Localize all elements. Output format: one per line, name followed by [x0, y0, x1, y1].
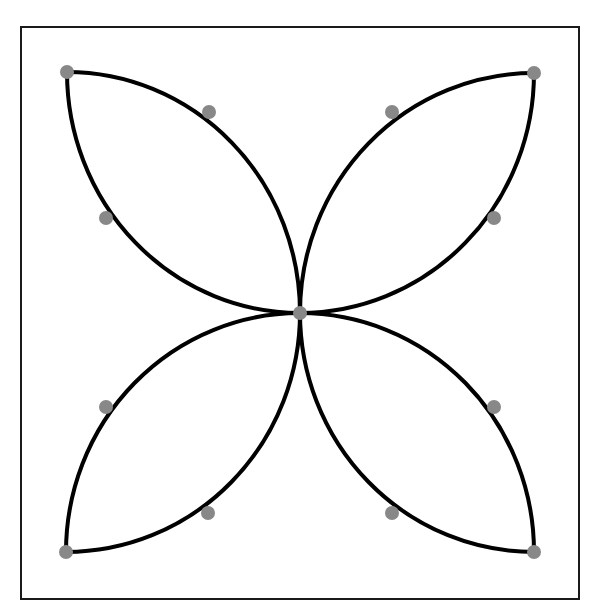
midpoint-7 — [385, 506, 399, 520]
petal-top-right-lower-arc — [300, 73, 534, 313]
petal-bottom-right-upper-arc — [300, 313, 534, 552]
petal-diagram — [0, 0, 597, 613]
petal-top-left-upper-arc — [67, 72, 300, 313]
control-points — [59, 65, 541, 559]
petal-bottom-left-upper-arc — [66, 313, 300, 552]
midpoint-6 — [487, 400, 501, 414]
midpoint-3 — [487, 211, 501, 225]
midpoint-2 — [385, 105, 399, 119]
midpoint-1 — [99, 211, 113, 225]
corner-point-top-left — [60, 65, 74, 79]
corner-point-bottom-right — [527, 545, 541, 559]
petal-bottom-right-lower-arc — [300, 313, 534, 552]
midpoint-4 — [99, 400, 113, 414]
petal-top-left-lower-arc — [67, 72, 300, 313]
corner-point-bottom-left — [59, 545, 73, 559]
center-point — [293, 306, 307, 320]
petal-bottom-left-lower-arc — [66, 313, 300, 552]
midpoint-5 — [201, 506, 215, 520]
petal-top-right-upper-arc — [300, 73, 534, 313]
corner-point-top-right — [527, 66, 541, 80]
midpoint-0 — [202, 105, 216, 119]
